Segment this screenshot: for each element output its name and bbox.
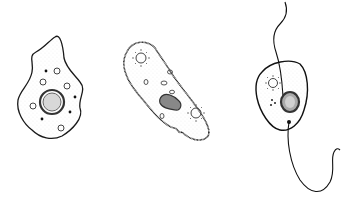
- protozoa-illustration: [0, 0, 345, 201]
- flagellate-icon: [256, 2, 340, 192]
- amoeba-icon: [18, 36, 83, 138]
- paramecium-icon: [124, 42, 209, 140]
